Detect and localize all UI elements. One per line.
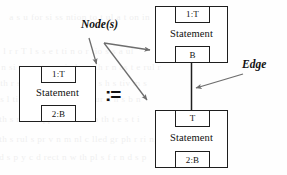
- edge-annotation-text: Edge: [242, 58, 266, 70]
- assignment-operator-text: :=: [105, 84, 120, 105]
- nodes-arrow-to-rhs-top: [104, 43, 150, 50]
- edge-arrow: [196, 74, 243, 88]
- nodes-annotation-label: Node(s): [81, 18, 118, 30]
- rhs-bottom-node-center-label: Statement: [156, 132, 227, 143]
- lhs-statement-node: 1:T Statement 2:B: [19, 66, 96, 122]
- rhs-top-node-top-slot: 1:T: [175, 6, 210, 23]
- rhs-bottom-node-top-slot: T: [175, 110, 210, 127]
- nodes-annotation-text: Node(s): [81, 18, 118, 30]
- rhs-top-node-top-slot-label: 1:T: [186, 9, 199, 19]
- lhs-top-slot: 1:T: [41, 66, 76, 83]
- lhs-node-center-label: Statement: [20, 87, 95, 98]
- lhs-bottom-slot-label: 2:B: [52, 109, 66, 119]
- rhs-bottom-statement-node: T Statement 2:B: [155, 110, 228, 168]
- bleed-line: l r r T l s s e t ti n o r tio s s a ul: [3, 44, 134, 60]
- bleed-line: th s rul s pr v n m nl c lled gr ph r ri…: [0, 132, 159, 148]
- rhs-top-node-center-label: Statement: [156, 28, 227, 39]
- bleed-line: a s u for si ss ntion to t ul a t on in: [9, 10, 150, 26]
- edge-annotation-label: Edge: [242, 58, 266, 70]
- rhs-bottom-node-bottom-slot: 2:B: [175, 151, 210, 168]
- lhs-node-center-text: Statement: [36, 87, 79, 98]
- rhs-top-node-bottom-slot: B: [175, 46, 210, 63]
- lhs-top-slot-label: 1:T: [52, 69, 65, 79]
- diagram-canvas: a s u for si ss ntion to t ul a t on in …: [0, 0, 287, 175]
- rhs-top-node-bottom-slot-label: B: [189, 50, 195, 60]
- rhs-top-statement-node: 1:T Statement B: [155, 6, 228, 63]
- nodes-arrow-to-lhs: [89, 38, 97, 64]
- bleed-line: d s p y c d rect n w th pl s f r n d s p: [0, 150, 147, 166]
- rhs-bottom-node-center-text: Statement: [170, 132, 213, 143]
- rhs-bottom-node-bottom-slot-label: 2:B: [186, 155, 200, 165]
- rhs-top-node-center-text: Statement: [170, 28, 213, 39]
- lhs-bottom-slot: 2:B: [41, 105, 76, 122]
- assignment-operator: :=: [105, 84, 120, 106]
- rhs-bottom-node-top-slot-label: T: [190, 113, 196, 123]
